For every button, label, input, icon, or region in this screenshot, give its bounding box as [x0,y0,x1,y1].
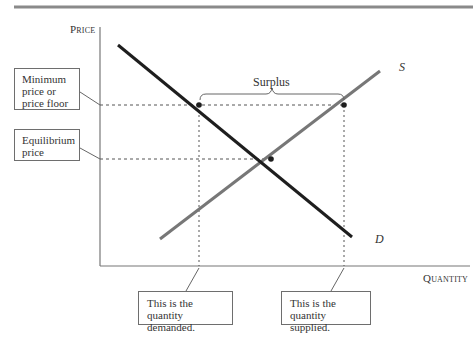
y-axis-label: Price [70,23,95,35]
diagram-canvas [0,0,473,337]
demand-at-floor-point [196,102,202,108]
supply-at-floor-point [341,102,347,108]
quantity-demanded-line-2: quantity demanded. [147,309,224,333]
quantity-supplied-callout: This is the quantity supplied. [281,291,371,325]
equilibrium-price-callout: Equilibrium price [14,129,80,161]
quantity-supplied-line-2: quantity supplied. [290,309,362,333]
supply-curve-label: S [399,60,405,75]
price-floor-callout: Minimum price or price floor [14,68,80,110]
price-floor-line-1: Minimum [22,73,72,85]
price-floor-line-3: price floor [22,97,72,109]
quantity-demanded-callout: This is the quantity demanded. [138,291,233,325]
demand-curve [118,45,352,237]
surplus-label: Surplus [253,75,290,90]
quantity-demanded-line-1: This is the [147,297,224,309]
equilibrium-price-line-2: price [22,146,72,158]
price-floor-connector [80,92,100,105]
quantity-supplied-line-1: This is the [290,297,362,309]
demand-curve-label: D [375,232,384,247]
price-floor-line-2: price or [22,85,72,97]
x-axis-label: Quantity [423,272,468,284]
equilibrium-point [268,156,274,162]
equilibrium-price-line-1: Equilibrium [22,134,72,146]
quantity-supplied-connector [331,268,344,291]
equilibrium-connector [80,148,100,159]
supply-curve [160,71,380,239]
quantity-demanded-connector [186,268,199,291]
